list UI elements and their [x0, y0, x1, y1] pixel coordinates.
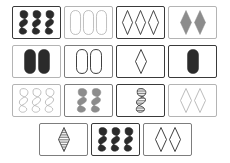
set-card-diamond-2-outline[interactable]	[143, 123, 192, 156]
oval-symbol-icon	[83, 10, 94, 35]
set-card-oval-2-outline[interactable]	[64, 45, 113, 78]
card-row-3	[39, 123, 192, 156]
set-card-squiggle-3-solid[interactable]	[91, 123, 140, 156]
set-card-diamond-1-outline[interactable]	[116, 45, 165, 78]
oval-symbol-icon	[187, 49, 199, 74]
diamond-symbol-icon	[122, 10, 133, 35]
diamond-symbol-icon	[148, 10, 159, 35]
diamond-symbol-icon	[194, 88, 206, 113]
set-card-diamond-3-outline[interactable]	[116, 6, 165, 39]
diamond-symbol-icon	[155, 127, 167, 152]
diamond-symbol-icon	[180, 88, 192, 113]
squiggle-symbol-icon	[123, 127, 134, 152]
squiggle-symbol-icon	[90, 88, 102, 113]
oval-symbol-icon	[38, 49, 50, 74]
card-row-1	[12, 45, 217, 78]
set-card-diamond-1-striped[interactable]	[39, 123, 88, 156]
oval-symbol-icon	[24, 49, 36, 74]
set-card-oval-1-solid[interactable]	[168, 45, 217, 78]
card-row-2	[12, 84, 217, 117]
set-card-oval-2-solid[interactable]	[12, 45, 61, 78]
squiggle-symbol-icon	[76, 88, 88, 113]
oval-symbol-icon	[76, 49, 88, 74]
diamond-symbol-icon	[58, 127, 70, 152]
diamond-symbol-icon	[194, 10, 206, 35]
set-game-board	[0, 0, 230, 163]
set-card-squiggle-3-solid[interactable]	[12, 6, 61, 39]
oval-symbol-icon	[70, 10, 81, 35]
squiggle-symbol-icon	[135, 88, 147, 113]
set-card-oval-3-outline[interactable]	[64, 6, 113, 39]
set-card-squiggle-1-striped[interactable]	[116, 84, 165, 117]
set-card-squiggle-3-outline[interactable]	[12, 84, 61, 117]
squiggle-symbol-icon	[44, 88, 55, 113]
oval-symbol-icon	[96, 10, 107, 35]
diamond-symbol-icon	[135, 49, 147, 74]
oval-symbol-icon	[90, 49, 102, 74]
squiggle-symbol-icon	[44, 10, 55, 35]
set-card-diamond-2-solid[interactable]	[168, 6, 217, 39]
squiggle-symbol-icon	[18, 10, 29, 35]
diamond-symbol-icon	[135, 10, 146, 35]
squiggle-symbol-icon	[31, 88, 42, 113]
set-card-squiggle-2-solid[interactable]	[64, 84, 113, 117]
squiggle-symbol-icon	[31, 10, 42, 35]
squiggle-symbol-icon	[97, 127, 108, 152]
diamond-symbol-icon	[180, 10, 192, 35]
diamond-symbol-icon	[169, 127, 181, 152]
card-row-0	[12, 6, 217, 39]
squiggle-symbol-icon	[18, 88, 29, 113]
squiggle-symbol-icon	[110, 127, 121, 152]
set-card-diamond-2-outline[interactable]	[168, 84, 217, 117]
